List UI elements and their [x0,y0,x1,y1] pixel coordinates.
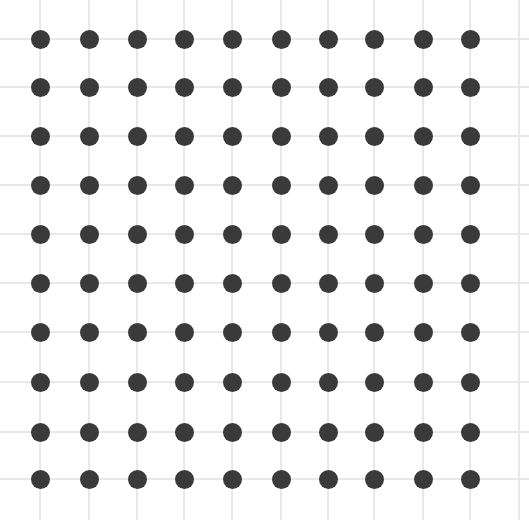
dot [319,423,338,442]
dot [80,127,99,146]
dot [223,176,242,195]
dot [365,373,384,392]
dot [319,127,338,146]
dot [319,78,338,97]
dot [223,225,242,244]
dot [272,127,291,146]
dot [223,423,242,442]
dot [365,323,384,342]
dot [175,176,194,195]
dot [461,78,480,97]
dot [31,373,50,392]
dot [365,176,384,195]
dot [272,373,291,392]
dot [31,423,50,442]
dot [80,176,99,195]
dot [31,323,50,342]
dot [365,225,384,244]
dot [319,274,338,293]
dot [223,373,242,392]
dot [223,274,242,293]
dot [175,373,194,392]
dot [365,127,384,146]
dot [31,78,50,97]
dot [223,470,242,489]
dot [128,127,147,146]
dot [175,323,194,342]
dot [461,30,480,49]
dot [272,274,291,293]
dot [272,30,291,49]
dot [80,78,99,97]
dot [365,78,384,97]
dot [80,323,99,342]
dot [128,30,147,49]
dot [272,176,291,195]
dot [365,30,384,49]
dot [272,423,291,442]
dot [175,78,194,97]
dot [414,30,433,49]
dot [461,470,480,489]
dot [80,225,99,244]
dot [223,78,242,97]
dot [414,423,433,442]
dot [80,470,99,489]
dot [365,470,384,489]
dot [128,274,147,293]
dot [128,323,147,342]
dot [319,30,338,49]
dot [365,423,384,442]
dot [319,323,338,342]
dot [461,176,480,195]
dot [31,127,50,146]
dot [272,78,291,97]
dot [128,225,147,244]
dot [223,323,242,342]
dot [128,176,147,195]
dot [31,176,50,195]
dot [319,225,338,244]
dot [319,176,338,195]
dot [80,423,99,442]
dot [128,470,147,489]
dot [461,225,480,244]
grid-line-vertical [518,0,520,520]
dot [31,30,50,49]
dot [414,470,433,489]
dot [414,225,433,244]
dot [223,30,242,49]
dot [128,78,147,97]
dot [461,274,480,293]
dot [319,470,338,489]
dot [414,274,433,293]
dot [31,470,50,489]
dot [461,127,480,146]
dot [414,373,433,392]
dot [175,30,194,49]
dot [175,423,194,442]
dot [272,323,291,342]
dot [128,423,147,442]
dot-grid-canvas [0,0,529,520]
dot [272,225,291,244]
dot [175,127,194,146]
dot [461,373,480,392]
dot [365,274,384,293]
dot [128,373,147,392]
dot [175,225,194,244]
dot [80,274,99,293]
dot [414,127,433,146]
dot [414,176,433,195]
dot [223,127,242,146]
dot [80,30,99,49]
dot [175,274,194,293]
dot [31,274,50,293]
dot [272,470,291,489]
dot [461,323,480,342]
dot [414,78,433,97]
dot [80,373,99,392]
dot [461,423,480,442]
dot [31,225,50,244]
dot [175,470,194,489]
